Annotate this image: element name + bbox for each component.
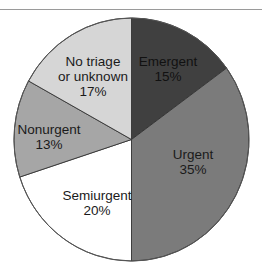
pie-chart: No triage or unknown 17% Emergent 15% No… — [0, 0, 262, 277]
label-emergent-line1: Emergent — [139, 54, 198, 69]
label-nonurgent-value: 13% — [35, 137, 62, 152]
label-nonurgent-line1: Nonurgent — [17, 122, 80, 137]
label-notriage-value: 17% — [79, 84, 106, 99]
label-semiurgent-line1: Semiurgent — [62, 188, 131, 203]
label-notriage-line1: No triage — [66, 54, 121, 69]
label-emergent-value: 15% — [154, 69, 181, 84]
label-semiurgent-value: 20% — [83, 203, 110, 218]
label-notriage-line2: or unknown — [58, 69, 128, 84]
label-urgent-value: 35% — [179, 162, 206, 177]
label-urgent-line1: Urgent — [173, 147, 214, 162]
